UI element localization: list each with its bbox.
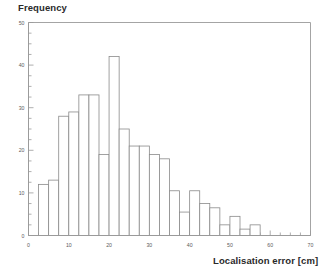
histogram-bars xyxy=(29,23,311,236)
histogram-bar xyxy=(180,212,190,235)
histogram-bar xyxy=(109,57,119,236)
histogram-bar xyxy=(69,112,79,236)
histogram-bar xyxy=(49,180,59,235)
x-tick-label: 50 xyxy=(227,242,233,248)
x-axis-title: Localisation error [cm] xyxy=(213,255,318,266)
x-tick-label: 20 xyxy=(106,242,112,248)
y-tick-label: 20 xyxy=(19,147,25,153)
histogram-bar xyxy=(79,95,89,236)
x-tick-label: 70 xyxy=(308,242,314,248)
histogram-bar xyxy=(250,225,260,236)
histogram-bar xyxy=(240,229,250,235)
x-tick-label: 30 xyxy=(146,242,152,248)
y-axis-ticks xyxy=(29,23,34,236)
histogram-bar xyxy=(149,155,159,236)
x-tick-label: 40 xyxy=(187,242,193,248)
histogram-bar xyxy=(230,216,240,235)
histogram-bar xyxy=(129,146,139,235)
x-tick-label: 60 xyxy=(267,242,273,248)
y-tick-label: 50 xyxy=(19,20,25,26)
x-tick-label: 0 xyxy=(27,242,30,248)
y-tick-label: 10 xyxy=(19,190,25,196)
histogram-bar xyxy=(220,225,230,236)
y-tick-label: 0 xyxy=(22,233,25,239)
histogram-bar xyxy=(139,146,149,235)
histogram-bar xyxy=(210,208,220,236)
histogram-bar xyxy=(190,191,200,236)
histogram-bar xyxy=(159,159,169,236)
histogram-bar xyxy=(200,204,210,236)
histogram-bar xyxy=(170,191,180,236)
histogram-bar xyxy=(89,95,99,236)
histogram-plot: 010203040506070 01020304050 xyxy=(0,0,326,276)
y-tick-label: 30 xyxy=(19,105,25,111)
x-axis-tick-labels: 010203040506070 xyxy=(27,242,313,248)
y-axis-tick-labels: 01020304050 xyxy=(19,20,25,239)
histogram-bar xyxy=(119,129,129,236)
x-tick-label: 10 xyxy=(66,242,72,248)
histogram-bar xyxy=(59,116,69,235)
histogram-bar xyxy=(99,155,109,236)
histogram-bar xyxy=(39,184,49,235)
histogram-figure: Frequency 010203040506070 01020304050 Lo… xyxy=(0,0,326,276)
y-tick-label: 40 xyxy=(19,62,25,68)
